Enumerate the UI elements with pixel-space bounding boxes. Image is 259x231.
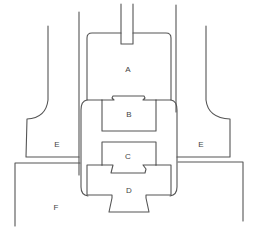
sleeve-walls [79,5,176,175]
label-c: C [125,152,131,161]
label-b: B [126,110,131,119]
cross-section-diagram: A B C D E E F [0,0,259,231]
label-a: A [125,65,131,74]
housing-e-right [177,26,230,157]
label-e-right: E [198,140,203,149]
shaft [121,4,133,44]
label-e-left: E [54,140,59,149]
label-d: D [126,186,132,195]
diagram-canvas: A B C D E E F [0,0,259,231]
label-f: F [54,203,59,212]
housing-e-left [26,26,79,157]
